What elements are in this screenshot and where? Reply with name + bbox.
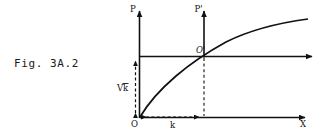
p-axis-label: P: [130, 4, 136, 14]
shifted-origin-label: O': [196, 45, 205, 55]
sqrt-k-radicand: k: [123, 83, 129, 93]
figure-container: Fig. 3A.2 P P' X: [0, 0, 323, 131]
k-measure-label: k: [170, 120, 176, 130]
origin-label: O: [131, 119, 138, 129]
p-prime-axis-label: P': [195, 4, 203, 14]
sqrt-curve: [140, 19, 308, 117]
diagram-svg: P P' X O O' k V k: [0, 0, 323, 131]
sqrt-k-measure-label: V k: [116, 83, 129, 93]
x-axis-label: X: [300, 119, 307, 129]
